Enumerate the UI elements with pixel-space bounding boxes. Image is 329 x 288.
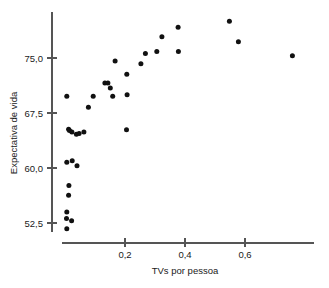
data-point [290,53,295,58]
data-point [113,58,118,63]
axes [52,12,314,243]
y-tick-label: 52,5 [25,218,44,229]
data-point [124,72,129,77]
data-point [69,130,74,135]
data-point [64,94,69,99]
data-point [159,34,164,39]
data-point [66,183,71,188]
data-point [64,210,69,215]
data-point [143,51,148,56]
tick-marks [47,58,245,247]
data-point [227,19,232,24]
y-tick-label: 75,0 [25,53,44,64]
data-point [70,158,75,163]
data-point [176,49,181,54]
tick-labels: 52,560,067,575,00,20,40,6 [25,53,252,261]
data-point [81,130,86,135]
data-point [108,86,113,91]
data-point [138,61,143,66]
data-point [105,80,110,85]
x-tick-label: 0,2 [118,249,131,260]
x-tick-label: 0,4 [178,249,191,260]
y-axis-title: Expectativa de vida [8,91,19,174]
data-point [69,218,74,223]
data-point [236,39,241,44]
x-axis-title: TVs por pessoa [152,265,219,276]
data-point [91,94,96,99]
data-point [64,216,69,221]
data-points [64,19,295,232]
data-point [64,160,69,165]
data-point [110,94,115,99]
y-tick-label: 67,5 [25,108,44,119]
data-point [125,92,130,97]
data-point [77,131,82,136]
data-point [124,127,129,132]
data-point [66,193,71,198]
y-tick-label: 60,0 [25,163,44,174]
x-tick-label: 0,6 [238,249,251,260]
data-point [176,25,181,30]
data-point [86,105,91,110]
scatter-plot-figure: 52,560,067,575,00,20,40,6 TVs por pessoa… [0,0,329,288]
plot-canvas: 52,560,067,575,00,20,40,6 TVs por pessoa… [0,0,329,288]
data-point [64,226,69,231]
data-point [75,163,80,168]
data-point [154,49,159,54]
